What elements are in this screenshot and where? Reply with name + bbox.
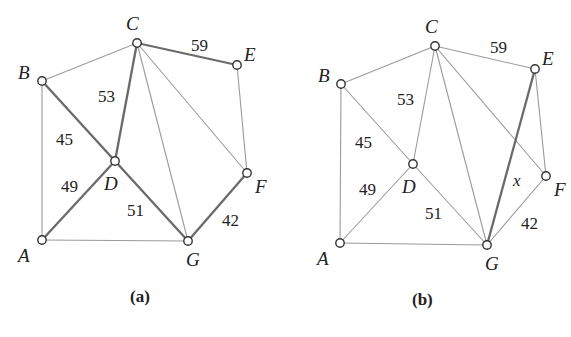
edge-ag <box>42 240 188 241</box>
edge-weight-label: 45 <box>355 133 372 152</box>
edge-fg <box>188 173 247 241</box>
vertex-a-node <box>38 236 46 244</box>
vertex-e-node <box>233 61 241 69</box>
edge-ef <box>237 65 247 173</box>
edge-weight-label: x <box>512 171 521 190</box>
vertex-f-node <box>542 172 550 180</box>
vertex-label: E <box>243 44 256 65</box>
vertex-d-node <box>409 160 417 168</box>
panel-caption: (a) <box>130 287 150 306</box>
vertex-b-node <box>337 80 345 88</box>
panel-a-graph: 595345495142ABCDEFG(a) <box>16 13 267 306</box>
edge-bc <box>42 43 137 81</box>
edge-ab <box>340 84 341 243</box>
edge-weight-label: 42 <box>222 211 239 230</box>
vertex-label: F <box>553 179 566 200</box>
vertex-a-node <box>336 239 344 247</box>
edge-weight-label: 51 <box>127 201 144 220</box>
graph-diagram: 595345495142ABCDEFG(a) 595345495142xABCD… <box>0 0 571 337</box>
edge-weight-label: 59 <box>490 38 507 57</box>
vertex-label: F <box>254 176 267 197</box>
vertex-g-node <box>184 237 192 245</box>
vertex-label: G <box>485 253 499 274</box>
vertex-e-node <box>531 65 539 73</box>
vertex-label: B <box>18 62 30 83</box>
vertex-label: B <box>318 65 330 86</box>
edge-weight-label: 53 <box>397 90 414 109</box>
vertex-d-node <box>111 157 119 165</box>
vertex-label: E <box>541 48 554 69</box>
edge-weight-label: 53 <box>98 87 115 106</box>
edge-dg <box>115 161 188 241</box>
vertex-label: C <box>425 16 438 37</box>
edge-weight-label: 42 <box>521 214 538 233</box>
edge-ag <box>340 243 487 245</box>
vertex-b-node <box>38 77 46 85</box>
vertex-f-node <box>243 169 251 177</box>
vertex-c-node <box>431 42 439 50</box>
vertex-g-node <box>483 241 491 249</box>
edge-ce <box>435 46 535 69</box>
edge-weight-label: 45 <box>56 130 73 149</box>
edge-bc <box>341 46 435 84</box>
vertex-c-node <box>133 39 141 47</box>
vertex-label: G <box>186 249 200 270</box>
vertex-label: D <box>103 173 118 194</box>
vertex-label: A <box>315 248 329 269</box>
vertex-label: D <box>401 176 416 197</box>
edge-ce <box>137 43 237 65</box>
edge-ef <box>535 69 546 176</box>
panel-caption: (b) <box>412 290 433 309</box>
edge-cd <box>413 46 435 164</box>
edge-cd <box>115 43 137 161</box>
vertex-label: C <box>126 13 139 34</box>
edge-weight-label: 59 <box>191 36 208 55</box>
panel-b-graph: 595345495142xABCDEFG(b) <box>315 16 566 309</box>
vertex-label: A <box>16 245 30 266</box>
edge-weight-label: 49 <box>359 180 376 199</box>
edge-weight-label: 51 <box>425 204 442 223</box>
edge-weight-label: 49 <box>61 177 78 196</box>
